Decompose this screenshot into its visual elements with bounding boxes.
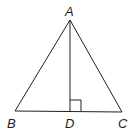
segment-bc: [15, 111, 122, 112]
triangle-diagram: A B D C: [0, 0, 133, 133]
label-c: C: [118, 116, 128, 131]
segment-ac: [70, 20, 122, 112]
label-a: A: [64, 4, 74, 19]
label-d: D: [65, 116, 74, 131]
label-b: B: [7, 116, 16, 131]
right-angle-marker: [70, 100, 81, 111]
segment-ab: [15, 20, 70, 111]
